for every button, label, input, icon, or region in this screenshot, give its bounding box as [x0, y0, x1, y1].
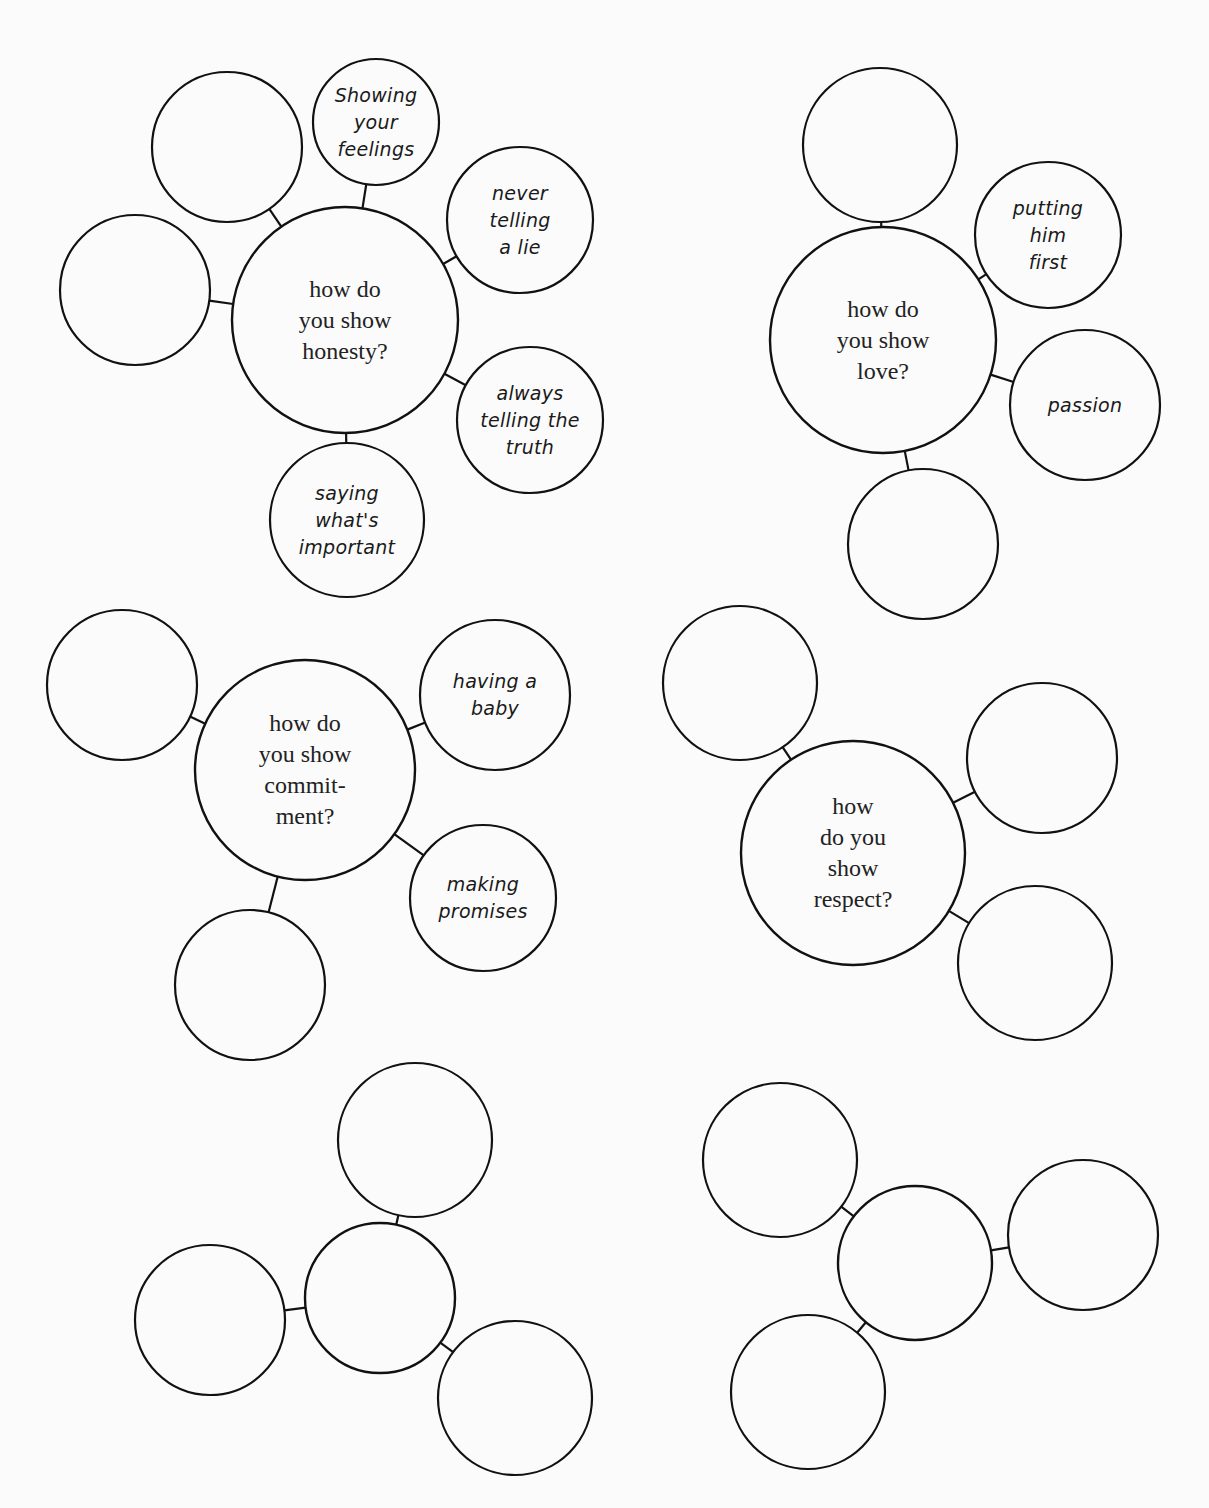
center-bubble-love-text: how do you show love?: [837, 294, 930, 387]
satellite-bubble-love-1-text: putting him first: [1013, 195, 1083, 276]
satellite-bubble-commitment-2: making promises: [410, 825, 556, 971]
satellite-bubble-love-0: [803, 68, 957, 222]
satellite-bubble-honesty-1: [60, 215, 210, 365]
satellite-bubble-honesty-4-text: always telling the truth: [480, 380, 580, 461]
satellite-bubble-honesty-3-text: never telling a lie: [489, 180, 550, 261]
satellite-bubble-commitment-3: [175, 910, 325, 1060]
satellite-bubble-love-3: [848, 469, 998, 619]
satellite-bubble-honesty-2: Showing your feelings: [313, 59, 439, 185]
connector-love-3: [905, 451, 909, 471]
satellite-bubble-commitment-1-text: having a baby: [453, 668, 537, 722]
connector-honesty-1: [209, 301, 233, 304]
satellite-bubble-blank-1-1: [135, 1245, 285, 1395]
satellite-bubble-commitment-2-text: making promises: [438, 871, 527, 925]
center-bubble-blank-1: [305, 1223, 455, 1373]
spidergram-worksheet: how do you show honesty?Showing your fee…: [0, 0, 1209, 1508]
satellite-bubble-honesty-0: [152, 72, 302, 222]
satellite-bubble-blank-2-0: [703, 1083, 857, 1237]
center-bubble-commitment: how do you show commit- ment?: [195, 660, 415, 880]
connector-honesty-2: [362, 184, 366, 208]
satellite-bubble-honesty-5: saying what's important: [270, 443, 424, 597]
satellite-bubble-blank-2-1: [1008, 1160, 1158, 1310]
center-bubble-honesty-text: how do you show honesty?: [299, 274, 392, 367]
connector-blank-2-1: [991, 1247, 1009, 1250]
satellite-bubble-blank-2-2: [731, 1315, 885, 1469]
satellite-bubble-love-2-text: passion: [1048, 392, 1123, 419]
satellite-bubble-respect-2: [958, 886, 1112, 1040]
connector-commitment-3: [269, 877, 278, 913]
center-bubble-commitment-text: how do you show commit- ment?: [259, 708, 352, 832]
center-bubble-respect: how do you show respect?: [741, 741, 965, 965]
satellite-bubble-honesty-3: never telling a lie: [447, 147, 593, 293]
center-bubble-honesty: how do you show honesty?: [232, 207, 458, 433]
satellite-bubble-blank-1-2: [438, 1321, 592, 1475]
center-bubble-love: how do you show love?: [770, 227, 996, 453]
connector-blank-1-1: [284, 1308, 305, 1311]
satellite-bubble-love-1: putting him first: [975, 162, 1121, 308]
satellite-bubble-commitment-1: having a baby: [420, 620, 570, 770]
satellite-bubble-honesty-4: always telling the truth: [457, 347, 603, 493]
center-bubble-respect-text: how do you show respect?: [814, 791, 893, 915]
satellite-bubble-honesty-5-text: saying what's important: [299, 480, 396, 561]
satellite-bubble-respect-0: [663, 606, 817, 760]
satellite-bubble-respect-1: [967, 683, 1117, 833]
satellite-bubble-love-2: passion: [1010, 330, 1160, 480]
satellite-bubble-honesty-2-text: Showing your feelings: [335, 82, 418, 163]
satellite-bubble-blank-1-0: [338, 1063, 492, 1217]
satellite-bubble-commitment-0: [47, 610, 197, 760]
